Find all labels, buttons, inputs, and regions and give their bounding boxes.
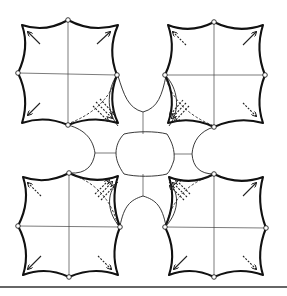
connector-bottom: [120, 196, 166, 226]
knot-icon: [16, 71, 21, 76]
module-bottom-left: [16, 171, 123, 280]
connector-left: [68, 125, 95, 173]
knot-icon: [212, 20, 217, 25]
knot-icon: [115, 73, 120, 78]
arrow-icon: [28, 183, 41, 196]
knot-icon: [66, 18, 71, 23]
module-top-right: [163, 20, 268, 130]
connector-panels: [68, 75, 214, 227]
knot-icon: [16, 224, 21, 229]
knot-icon: [67, 275, 72, 280]
module-bottom-right: [163, 172, 269, 280]
knot-icon: [163, 225, 168, 230]
connector-top: [118, 76, 166, 112]
arrow-icon: [173, 32, 186, 45]
knot-icon: [118, 225, 123, 230]
arrow-icon: [28, 32, 40, 44]
arrow-icon: [243, 183, 256, 196]
knot-icon: [212, 172, 217, 177]
knot-icon: [163, 73, 168, 78]
center-octagon: [116, 132, 174, 177]
knot-icon: [264, 226, 269, 231]
module-top-left: [16, 18, 120, 128]
connector-right: [192, 127, 214, 174]
arrow-icon: [97, 32, 110, 44]
knot-icon: [66, 123, 71, 128]
arrow-icon: [98, 256, 111, 269]
cushion-module-diagram: [0, 0, 287, 296]
knot-icon: [212, 125, 217, 130]
arrow-icon: [28, 256, 41, 269]
arrow-icon: [243, 256, 256, 269]
arrow-icon: [28, 103, 40, 115]
arrow-icon: [243, 32, 256, 45]
arrow-icon: [243, 103, 256, 116]
knot-icon: [67, 171, 72, 176]
knot-icon: [263, 73, 268, 78]
arrow-icon: [174, 256, 187, 269]
knot-icon: [212, 275, 217, 280]
